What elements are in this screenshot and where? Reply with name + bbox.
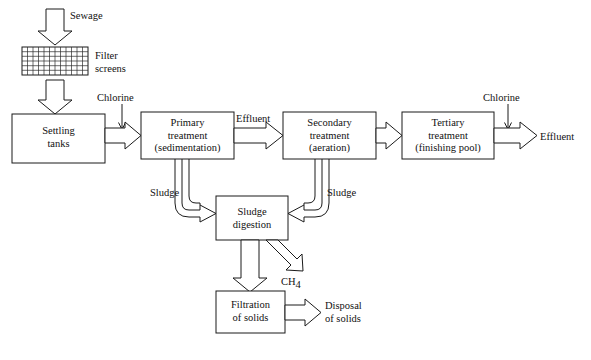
tertiary-treatment-label-line1: Tertiary [431,117,465,128]
primary-treatment-label-line3: (sedimentation) [155,142,221,154]
box-sludge-digestion [216,196,288,240]
sludge-left-return-arrow [175,159,216,222]
secondary-treatment-label-line1: Secondary [307,117,352,128]
settling-tanks-label-line1: Settling [42,125,75,136]
sludge-digestion-label-line1: Sludge [237,206,267,217]
flow-diagram-canvas: Sewage Filter screens [0,0,591,360]
settling-to-primary-arrow [105,122,141,149]
effluent-mid-label: Effluent [236,113,270,124]
sewage-inlet-arrow [38,9,72,45]
wastewater-flow-diagram: Sewage Filter screens [0,0,591,360]
tertiary-treatment-label-line3: (finishing pool) [415,142,481,154]
primary-to-secondary-arrow [234,122,283,149]
disposal-label-line2: of solids [325,313,361,324]
chlorine-right-label: Chlorine [483,92,520,103]
methane-label: CH4 [281,276,302,290]
chlorine-left-arrow [119,104,126,130]
secondary-treatment-label-line3: (aeration) [309,142,350,154]
filter-screens-label-line1: Filter [95,50,118,61]
disposal-label-line1: Disposal [325,300,362,311]
secondary-to-tertiary-arrow [376,122,402,149]
filter-screens-grid [22,47,88,75]
filtration-to-disposal-arrow [285,299,321,326]
primary-treatment-label-line1: Primary [171,117,206,128]
secondary-treatment-label-line2: treatment [310,130,350,141]
methane-output-arrow [266,240,303,271]
chlorine-left-label: Chlorine [97,92,134,103]
tertiary-treatment-label-line2: treatment [428,130,468,141]
filter-to-settling-arrow [38,80,72,114]
methane-subscript: 4 [296,279,302,290]
tertiary-to-effluent-arrow [494,122,537,149]
filtration-label-line2: of solids [233,312,269,323]
sludge-right-label: Sludge [327,187,357,198]
sludge-digestion-label-line2: digestion [233,219,272,230]
filter-screens-label-line2: screens [95,63,126,74]
sludge-right-return-arrow [288,159,329,222]
sewage-label: Sewage [70,10,103,21]
settling-tanks-label-line2: tanks [47,138,69,149]
chlorine-right-arrow [505,104,512,130]
methane-formula: CH [281,276,296,287]
effluent-right-label: Effluent [540,131,574,142]
digestion-to-filtration-arrow [233,240,267,292]
filtration-label-line1: Filtration [231,299,271,310]
primary-treatment-label-line2: treatment [168,130,208,141]
